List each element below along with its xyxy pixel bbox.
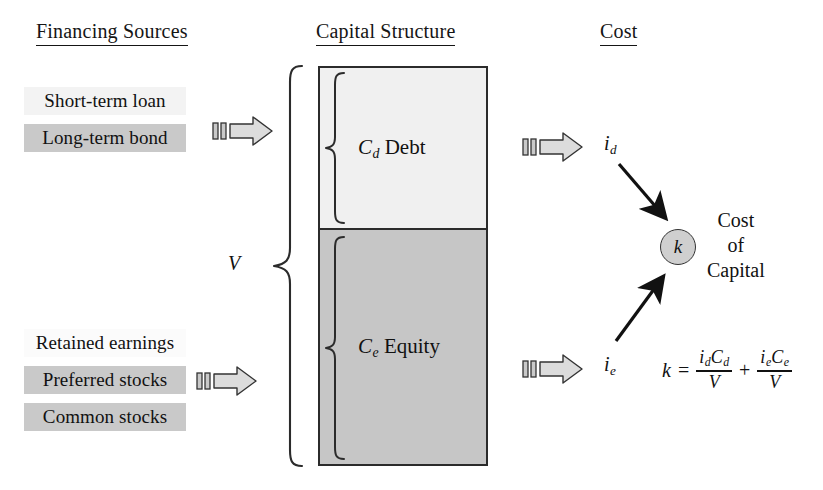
cost-of-capital-caption: Cost of Capital bbox=[707, 208, 765, 283]
financing-source-common-stocks[interactable]: Common stocks bbox=[24, 403, 186, 431]
formula-lhs: k bbox=[662, 359, 671, 382]
formula-term-1-num-symbol-1: i bbox=[699, 347, 704, 367]
debt-subscript: d bbox=[373, 146, 380, 161]
formula-term-2-num-symbol-1: i bbox=[760, 347, 765, 367]
diagram-canvas: Financing Sources Capital Structure Cost… bbox=[0, 0, 823, 490]
formula-term-1-num-symbol-2: C bbox=[711, 347, 723, 367]
cost-of-equity-subscript: e bbox=[610, 363, 616, 378]
cost-of-capital-formula: k = idCd V + ieCe V bbox=[662, 348, 792, 392]
column-header-financing-sources: Financing Sources bbox=[36, 20, 188, 46]
cost-of-capital-caption-line-2: of bbox=[707, 233, 765, 258]
formula-term-1: idCd V bbox=[696, 348, 732, 392]
financing-source-short-term-loan[interactable]: Short-term loan bbox=[24, 87, 186, 115]
debt-name: Debt bbox=[385, 135, 426, 159]
financing-source-retained-earnings[interactable]: Retained earnings bbox=[24, 329, 186, 357]
column-header-capital-structure: Capital Structure bbox=[316, 20, 455, 46]
block-arrow-right-icon-equity-cost bbox=[522, 353, 584, 385]
formula-term-1-num-sub-2: d bbox=[723, 355, 729, 369]
curly-brace-icon-total-value bbox=[268, 62, 308, 474]
formula-term-1-denominator: V bbox=[706, 372, 723, 392]
block-arrow-right-icon-equity-sources bbox=[196, 365, 258, 397]
formula-term-2: ieCe V bbox=[757, 348, 792, 392]
financing-source-long-term-bond[interactable]: Long-term bond bbox=[24, 124, 186, 152]
financing-source-preferred-stocks[interactable]: Preferred stocks bbox=[24, 366, 186, 394]
cost-of-debt-label: id bbox=[604, 132, 617, 158]
formula-term-2-denominator: V bbox=[766, 372, 783, 392]
cost-of-capital-node[interactable]: k bbox=[660, 229, 696, 265]
column-header-cost: Cost bbox=[600, 20, 637, 46]
cost-of-capital-caption-line-3: Capital bbox=[707, 258, 765, 283]
total-value-label: V bbox=[228, 252, 240, 275]
capital-structure-equity-label: Ce Equity bbox=[358, 334, 440, 361]
equity-name: Equity bbox=[384, 334, 440, 358]
equity-symbol: C bbox=[358, 334, 372, 358]
curly-brace-icon-debt bbox=[324, 70, 350, 230]
formula-term-2-num-sub-2: e bbox=[784, 355, 789, 369]
formula-plus: + bbox=[739, 359, 750, 382]
equity-subscript: e bbox=[373, 345, 379, 360]
formula-term-1-numerator: idCd bbox=[696, 348, 732, 370]
flow-arrow-icon-debt-to-k bbox=[614, 158, 694, 232]
cost-of-debt-subscript: d bbox=[610, 142, 617, 157]
cost-of-capital-node-symbol: k bbox=[674, 236, 682, 258]
block-arrow-right-icon-debt-sources bbox=[212, 115, 274, 147]
block-arrow-right-icon-debt-cost bbox=[522, 131, 584, 163]
formula-term-2-num-symbol-2: C bbox=[771, 347, 783, 367]
cost-of-capital-caption-line-1: Cost bbox=[707, 208, 765, 233]
debt-symbol: C bbox=[358, 135, 372, 159]
cost-of-debt-symbol: i bbox=[604, 132, 610, 154]
cost-of-equity-symbol: i bbox=[604, 353, 610, 375]
curly-brace-icon-equity bbox=[324, 234, 350, 466]
formula-term-2-numerator: ieCe bbox=[757, 348, 792, 370]
formula-equals: = bbox=[678, 359, 689, 382]
flow-arrow-icon-equity-to-k bbox=[614, 273, 694, 357]
capital-structure-debt-label: Cd Debt bbox=[358, 135, 426, 162]
